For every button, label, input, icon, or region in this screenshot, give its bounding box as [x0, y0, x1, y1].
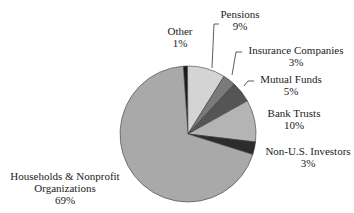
- label-households-name2: Organizations: [2, 182, 128, 194]
- label-non-us-investors: Non-U.S. Investors 3%: [262, 145, 354, 169]
- label-pensions-pct: 9%: [214, 20, 266, 32]
- label-non-us-name: Non-U.S. Investors: [262, 145, 354, 157]
- leader-insurance: [232, 52, 242, 75]
- pie-slices: [120, 66, 256, 202]
- label-mutual-funds-pct: 5%: [256, 85, 326, 97]
- label-pensions-name: Pensions: [214, 8, 266, 20]
- leader-mutual-funds: [244, 81, 254, 86]
- label-households: Households & Nonprofit Organizations 69%: [2, 170, 128, 206]
- label-non-us-pct: 3%: [262, 157, 354, 169]
- label-pensions: Pensions 9%: [214, 8, 266, 32]
- label-insurance-name: Insurance Companies: [244, 44, 348, 56]
- label-households-pct: 69%: [2, 194, 128, 206]
- label-households-name: Households & Nonprofit: [2, 170, 128, 182]
- label-bank-trusts-pct: 10%: [264, 119, 324, 131]
- label-insurance-companies: Insurance Companies 3%: [244, 44, 348, 68]
- label-other-pct: 1%: [160, 37, 200, 49]
- label-insurance-pct: 3%: [244, 56, 348, 68]
- label-mutual-funds: Mutual Funds 5%: [256, 73, 326, 97]
- label-bank-trusts-name: Bank Trusts: [264, 107, 324, 119]
- label-other-name: Other: [160, 25, 200, 37]
- label-mutual-funds-name: Mutual Funds: [256, 73, 326, 85]
- label-other: Other 1%: [160, 25, 200, 49]
- label-bank-trusts: Bank Trusts 10%: [264, 107, 324, 131]
